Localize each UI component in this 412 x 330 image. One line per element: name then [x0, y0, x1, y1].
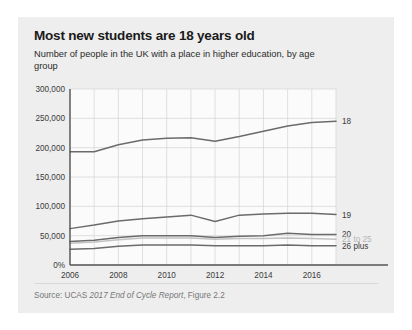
page-title: Most new students are 18 years old	[34, 28, 378, 44]
source-suffix: , Figure 2.2	[183, 291, 224, 300]
chart-plot-area: 0%50,000100,000150,000200,000250,000300,…	[18, 79, 394, 301]
series-labels: 18192021 to 2526 plus	[342, 117, 372, 250]
footer-divider	[34, 283, 378, 284]
chart-header: Most new students are 18 years old Numbe…	[18, 17, 394, 73]
y-axis-tick-label: 100,000	[35, 202, 65, 211]
y-axis-labels: 0%50,000100,000150,000200,000250,000300,…	[35, 85, 65, 270]
series-label-26-plus: 26 plus	[342, 242, 368, 251]
source-note: Source: UCAS 2017 End of Cycle Report, F…	[34, 291, 225, 300]
x-axis-tick-label: 2012	[206, 271, 225, 280]
y-axis-tick-label: 150,000	[35, 173, 65, 182]
y-axis-tick-label: 0%	[53, 261, 65, 270]
x-axis-tick-label: 2010	[158, 271, 177, 280]
x-axis-tick-label: 2014	[254, 271, 273, 280]
x-axis-tick-label: 2008	[109, 271, 128, 280]
y-axis-tick-label: 200,000	[35, 144, 65, 153]
source-prefix: Source: UCAS	[34, 291, 90, 300]
line-chart-svg: 0%50,000100,000150,000200,000250,000300,…	[18, 79, 394, 301]
y-axis-tick-label: 50,000	[40, 232, 65, 241]
series-label-18: 18	[342, 117, 352, 126]
chart-card: Most new students are 18 years old Numbe…	[18, 17, 394, 313]
x-axis-tick-label: 2016	[303, 271, 322, 280]
y-axis-tick-label: 300,000	[35, 85, 65, 94]
y-axis-tick-label: 250,000	[35, 114, 65, 123]
series-label-19: 19	[342, 211, 352, 220]
x-axis-tick-label: 2006	[61, 271, 80, 280]
chart-subtitle: Number of people in the UK with a place …	[34, 48, 339, 73]
x-axis-labels: 200620082010201220142016	[61, 271, 321, 280]
chart-footer: Source: UCAS 2017 End of Cycle Report, F…	[18, 283, 394, 313]
source-report-title: 2017 End of Cycle Report	[90, 291, 184, 300]
